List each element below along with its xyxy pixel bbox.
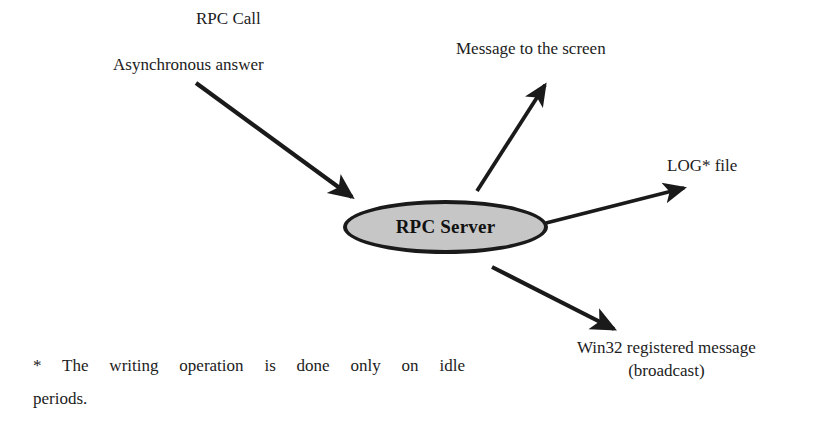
arrow-win32-message-out: [492, 267, 614, 329]
label-log-file: LOG* file: [667, 155, 737, 178]
label-win32-italic: Win32: [577, 338, 623, 357]
label-win32-registered-message: Win32 registered message (broadcast): [577, 337, 756, 383]
label-registered-message-text: registered message: [623, 338, 756, 357]
arrow-rpc-call-in: [196, 83, 352, 197]
diagram-canvas: RPC Call Asynchronous answer Message to …: [0, 0, 837, 444]
footnote-line-1-text: The writing operation is done only on: [62, 356, 439, 375]
label-broadcast: (broadcast): [577, 360, 756, 383]
footnote: * The writing operation is done only on …: [33, 349, 465, 415]
label-message-to-the-screen: Message to the screen: [456, 38, 606, 61]
node-rpc-server-label: RPC Server: [396, 216, 496, 238]
footnote-idle-suffix: e: [457, 356, 465, 375]
label-asynchronous-answer: Asynchronous answer: [113, 54, 264, 77]
footnote-marker: *: [33, 356, 42, 375]
footnote-line-2: periods.: [33, 382, 465, 415]
footnote-line-1: * The writing operation is done only on …: [33, 349, 465, 382]
arrow-message-to-screen-out: [477, 85, 545, 191]
footnote-idle-italic: idl: [440, 356, 458, 375]
arrow-log-file-out: [546, 188, 684, 223]
label-rpc-call: RPC Call: [196, 8, 261, 31]
node-rpc-server[interactable]: RPC Server: [343, 200, 548, 254]
